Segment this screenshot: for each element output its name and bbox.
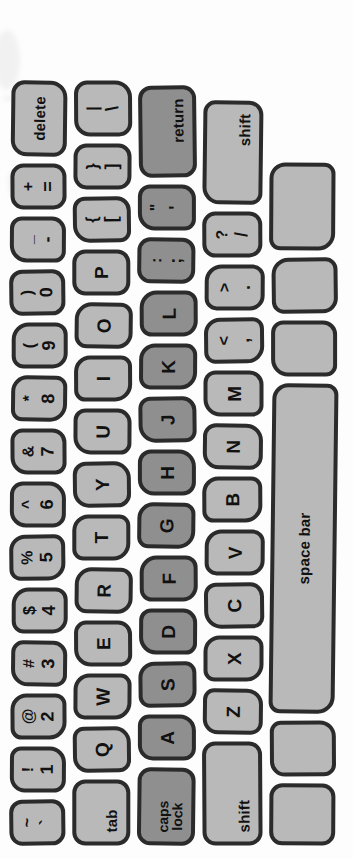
key-tab-label: tab: [104, 809, 119, 832]
key-5[interactable]: %5: [9, 534, 66, 581]
key-slash-shift-glyph: ?: [214, 229, 230, 239]
key-h[interactable]: H: [137, 449, 195, 495]
key-return-label: return: [170, 98, 186, 143]
key-s[interactable]: S: [138, 661, 197, 708]
key-return[interactable]: return: [137, 85, 196, 178]
key-period[interactable]: >.: [204, 264, 264, 310]
key-blank-2[interactable]: [269, 720, 335, 776]
key-l[interactable]: L: [139, 290, 197, 336]
key-4[interactable]: $4: [11, 587, 67, 633]
key-shift-right[interactable]: shift: [202, 100, 263, 205]
key-f-label: F: [159, 572, 178, 584]
key-0[interactable]: )0: [9, 269, 66, 316]
key-comma[interactable]: <,: [203, 317, 264, 364]
key-blank-5[interactable]: [269, 162, 336, 250]
key-backslash[interactable]: |\: [73, 80, 131, 136]
key-7-glyphs: &7: [20, 445, 56, 457]
key-v[interactable]: V: [204, 529, 264, 575]
key-quote-base-glyph: ': [166, 205, 184, 209]
key-3[interactable]: #3: [10, 640, 67, 687]
key-minus[interactable]: _-: [9, 216, 65, 262]
key-slash[interactable]: ?/: [202, 211, 262, 257]
key-shift-left[interactable]: shift: [201, 741, 262, 845]
key-delete-label: delete: [31, 96, 47, 141]
key-z[interactable]: Z: [202, 688, 263, 735]
key-7-base-glyph: 7: [38, 446, 56, 456]
key-semicolon[interactable]: :;: [137, 237, 196, 284]
key-p-label: P: [91, 265, 110, 278]
key-r[interactable]: R: [74, 567, 133, 614]
key-blank-1[interactable]: [269, 783, 335, 845]
keyboard-row-bottom-letter-row: shiftZXCVBNM<,>.?/shift: [203, 93, 263, 845]
key-w-label: W: [92, 687, 111, 706]
key-n[interactable]: N: [202, 423, 263, 470]
key-t[interactable]: T: [72, 514, 130, 560]
key-backtick[interactable]: ~`: [9, 799, 66, 846]
key-delete[interactable]: delete: [10, 80, 67, 157]
key-caps-lock[interactable]: capslock: [136, 767, 195, 846]
key-blank-3[interactable]: [271, 320, 337, 376]
key-a-label: A: [157, 730, 176, 744]
key-0-glyphs: )0: [19, 287, 55, 297]
key-9-glyphs: (9: [21, 340, 57, 350]
key-bracket-left-glyphs: {[: [83, 216, 119, 223]
key-x[interactable]: X: [203, 635, 263, 681]
key-6[interactable]: ^6: [9, 481, 65, 527]
key-bracket-left-base-glyph: [: [101, 216, 119, 222]
keyboard-row-space-row: space bar: [270, 155, 336, 845]
key-1-shift-glyph: !: [19, 766, 35, 771]
key-bracket-left[interactable]: {[: [72, 196, 131, 243]
key-1[interactable]: !1: [9, 746, 65, 792]
key-a[interactable]: A: [137, 714, 195, 760]
key-2[interactable]: @2: [10, 693, 66, 739]
key-backtick-base-glyph: `: [37, 819, 55, 825]
key-slash-glyphs: ?/: [214, 229, 250, 239]
key-c[interactable]: C: [203, 582, 264, 629]
key-u[interactable]: U: [73, 408, 131, 454]
key-b[interactable]: B: [202, 476, 262, 522]
key-i[interactable]: I: [73, 355, 131, 401]
key-9-shift-glyph: (: [21, 342, 37, 347]
key-r-label: R: [94, 583, 113, 597]
key-9[interactable]: (9: [11, 322, 67, 368]
key-blank-4[interactable]: [271, 257, 338, 314]
key-7[interactable]: &7: [10, 428, 66, 474]
key-o[interactable]: O: [74, 302, 133, 349]
key-equal[interactable]: +=: [10, 163, 66, 209]
key-w[interactable]: W: [73, 673, 131, 719]
key-minus-base-glyph: -: [37, 236, 55, 242]
key-y[interactable]: Y: [72, 461, 131, 508]
key-f[interactable]: F: [139, 555, 197, 601]
key-period-glyphs: >.: [216, 282, 252, 292]
key-bracket-right-glyphs: }]: [84, 163, 120, 169]
key-g[interactable]: G: [137, 502, 196, 549]
key-j[interactable]: J: [138, 396, 197, 443]
key-i-label: I: [93, 375, 112, 381]
key-equal-glyphs: +=: [20, 181, 56, 192]
key-6-shift-glyph: ^: [19, 499, 35, 508]
key-quote[interactable]: "': [137, 184, 195, 230]
key-equal-shift-glyph: +: [20, 181, 36, 190]
key-k[interactable]: K: [138, 343, 196, 389]
key-z-label: Z: [223, 705, 242, 717]
key-2-glyphs: @2: [20, 708, 56, 724]
key-8-base-glyph: 8: [39, 393, 57, 403]
key-v-label: V: [225, 545, 244, 558]
key-comma-glyphs: <,: [216, 335, 252, 345]
key-8[interactable]: *8: [10, 375, 67, 422]
key-d[interactable]: D: [138, 608, 196, 654]
key-semicolon-glyphs: :;: [148, 257, 184, 263]
key-bracket-right[interactable]: }]: [73, 143, 131, 189]
key-p[interactable]: P: [72, 249, 130, 295]
key-2-base-glyph: 2: [38, 711, 56, 721]
keyboard-row-home-row: capslockASDFGHJKL:;"'return: [138, 78, 196, 845]
key-m[interactable]: M: [203, 370, 263, 416]
key-space-bar[interactable]: space bar: [268, 383, 338, 714]
key-q[interactable]: Q: [72, 726, 131, 773]
key-e[interactable]: E: [73, 620, 131, 666]
key-tab[interactable]: tab: [72, 779, 130, 845]
key-3-glyphs: #3: [21, 658, 57, 668]
key-backslash-glyphs: |\: [85, 105, 121, 110]
key-d-label: D: [158, 624, 177, 638]
key-5-glyphs: %5: [19, 550, 55, 565]
